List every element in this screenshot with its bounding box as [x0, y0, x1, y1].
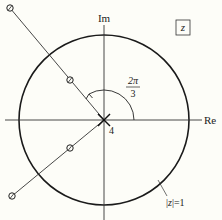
zero-marker-lower-inner [67, 145, 73, 151]
unit-circle-label: |z|=1 [166, 197, 185, 208]
z-plane-label: z [180, 21, 186, 33]
angle-label-numerator: 2π [128, 75, 139, 86]
imaginary-axis-label: Im [98, 12, 111, 24]
zero-marker-upper-inner [67, 77, 73, 83]
real-axis-label: Re [204, 114, 216, 126]
lower-zero-ray [12, 120, 104, 196]
zero-marker-lower-outer [9, 193, 15, 199]
angle-label-denominator: 3 [131, 88, 136, 99]
zero-marker-upper-outer [7, 5, 13, 11]
pole-zero-plot: z Im Re 2π 3 4 |z|=1 [0, 0, 222, 220]
angle-arrowhead-icon [86, 94, 93, 99]
pole-multiplicity-label: 4 [109, 125, 114, 136]
upper-zero-ray [10, 8, 104, 120]
angle-arc [89, 90, 134, 120]
